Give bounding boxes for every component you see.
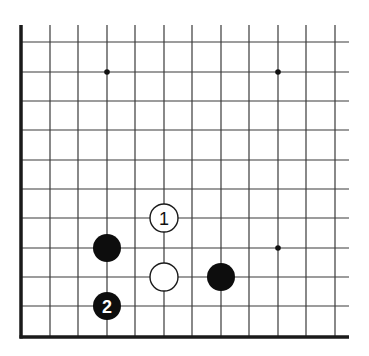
star-point-icon [275,69,281,75]
move-number-label: 2 [102,297,112,317]
white-stone-icon [150,263,178,291]
board-grid [21,25,349,337]
black-stone-2: 2 [93,292,121,320]
white-stone-1: 1 [150,204,178,232]
white-stone [150,263,178,291]
black-stone [207,263,235,291]
black-stone [93,234,121,262]
black-stone-icon [93,234,121,262]
star-point-icon [104,69,110,75]
move-number-label: 1 [159,209,169,229]
black-stone-icon [207,263,235,291]
star-point-icon [275,245,281,251]
go-board: 21 [0,0,369,356]
